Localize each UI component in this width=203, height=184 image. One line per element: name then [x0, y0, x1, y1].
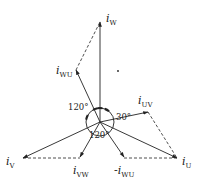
angle-arc-marker [93, 108, 98, 110]
angle-label: 120° [89, 130, 109, 140]
phasor-label-iW: iW [106, 12, 118, 27]
phasor-label-subscript: VW [76, 171, 90, 179]
phasor-label-iVW: iVW [73, 164, 90, 179]
phasor-label-iU: iU [182, 155, 192, 170]
phasor-diagram: 120°30°120° iWiWUiUViUiViVW-iWU [0, 0, 203, 184]
angle-arc-marker [86, 115, 88, 120]
phasor-label-subscript: WU [121, 171, 134, 179]
phasor-label-subscript: V [9, 162, 16, 170]
phasor-arrow-iV [23, 122, 100, 158]
phasor-label-iUV: iUV [138, 94, 153, 109]
phasor-label-subscript: WU [60, 71, 73, 79]
angle-arc-marker [105, 109, 109, 111]
phasor-label-subscript: UV [142, 101, 154, 109]
phasor-label-iV: iV [6, 155, 16, 170]
stray-dot [117, 70, 119, 72]
angle-label: 120° [68, 102, 88, 112]
phasor-label-iWU: iWU [56, 64, 73, 79]
phasor-label-niWU: -iWU [114, 164, 134, 179]
phasor-diagram-canvas: 120°30°120° iWiWUiUViUiViVW-iWU [0, 0, 203, 184]
phasor-label-subscript: U [186, 162, 192, 170]
phasor-label-subscript: W [110, 19, 118, 27]
dashed-line [76, 22, 100, 70]
phasor-labels: iWiWUiUViUiViVW-iWU [6, 12, 192, 179]
angle-label: 30° [116, 112, 131, 122]
